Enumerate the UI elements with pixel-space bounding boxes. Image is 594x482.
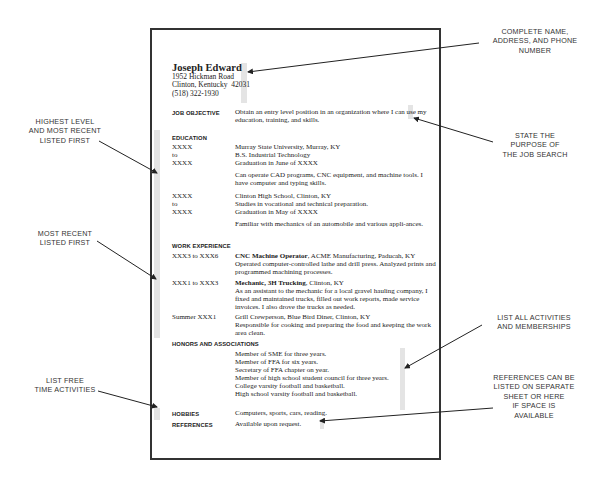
hobbies-heading: HOBBIES <box>172 411 199 417</box>
references-heading: REFERENCES <box>172 422 213 428</box>
job-objective-text: Obtain an entry level position in an org… <box>235 108 437 124</box>
annotation-highest-level: HIGHEST LEVEL AND MOST RECENT LISTED FIR… <box>5 117 125 145</box>
annotation-purpose: STATE THE PURPOSE OF THE JOB SEARCH <box>485 131 585 159</box>
education-heading: EDUCATION <box>172 135 207 141</box>
resume-page: Joseph Edward 1952 Hickman Road Clinton,… <box>150 28 441 460</box>
work-employer-3: Grill Crewperson, Blue Bird Diner, Clint… <box>235 313 370 321</box>
education-lines-2: Clinton High School, Clinton, KY Studies… <box>235 192 437 216</box>
work-title-1: CNC Machine Operator <box>235 252 308 260</box>
annotation-activities: LIST ALL ACTIVITIES AND MEMBERSHIPS <box>478 313 590 332</box>
work-employer-1: , ACME Manufacturing, Paducah, KY <box>308 252 416 260</box>
work-desc-3: Responsible for cooking and preparing th… <box>235 321 431 337</box>
highlight-work <box>154 242 160 338</box>
work-desc-1: Operated computer-controlled lathe and d… <box>235 260 436 276</box>
education-lines-1: Murray State University, Murray, KY B.S.… <box>235 143 437 167</box>
annotation-free-time: LIST FREE TIME ACTIVITIES <box>15 376 115 395</box>
work-dates-3: Summer XXX1 <box>172 313 216 321</box>
annotation-name-address: COMPLETE NAME, ADDRESS, AND PHONE NUMBER <box>480 27 590 55</box>
education-dates-1: XXXX to XXXX <box>172 143 192 167</box>
work-desc-2: As an assistant to the mechanic for a lo… <box>235 287 428 311</box>
job-objective-heading: JOB OBJECTIVE <box>172 110 220 116</box>
honors-heading: HONORS AND ASSOCIATIONS <box>172 341 259 347</box>
work-dates-2: XXX1 to XXX3 <box>172 279 218 287</box>
arrow-highest-level <box>99 141 157 173</box>
resume-address: 1952 Hickman Road Clinton, Kentucky 4203… <box>172 73 250 98</box>
work-entry-2: Mechanic, 3H Trucking, Clinton, KYAs an … <box>235 279 437 311</box>
highlight-education <box>154 130 160 244</box>
work-entry-1: CNC Machine Operator, ACME Manufacturing… <box>235 252 437 276</box>
work-dates-1: XXX3 to XXX6 <box>172 252 218 260</box>
education-note-2: Familiar with mechanics of an automobile… <box>235 220 437 228</box>
highlight-hobbies <box>154 408 160 420</box>
work-employer-2: , Clinton, KY <box>306 279 344 287</box>
honors-list: Member of SME for three years. Member of… <box>235 350 437 398</box>
work-experience-heading: WORK EXPERIENCE <box>172 243 231 249</box>
education-dates-2: XXXX to XXXX <box>172 192 192 216</box>
hobbies-text: Computers, sports, cars, reading. <box>235 409 437 417</box>
annotation-most-recent: MOST RECENT LISTED FIRST <box>15 229 115 248</box>
education-note-1: Can operate CAD programs, CNC equipment,… <box>235 171 437 187</box>
references-text: Available upon request. <box>235 420 437 428</box>
work-title-2: Mechanic, 3H Trucking <box>235 279 306 287</box>
annotation-references: REFERENCES CAN BE LISTED ON SEPARATE SHE… <box>478 373 590 420</box>
work-entry-3: Grill Crewperson, Blue Bird Diner, Clint… <box>235 313 437 337</box>
